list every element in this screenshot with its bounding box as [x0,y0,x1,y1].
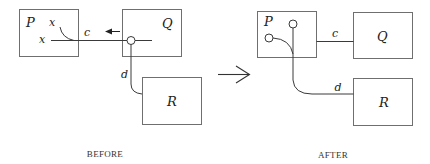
before-q-label: Q [162,16,173,31]
after-internal-wire [273,38,293,54]
before-channel-c-label: c [84,26,90,39]
after-panel: P Q R c d AFTER [258,12,413,161]
before-process-r: R [143,78,202,125]
after-q-label: Q [377,29,388,44]
after-channel-c-label: c [332,27,338,40]
after-caption: AFTER [318,150,348,160]
after-channel-d-label: d [334,81,341,94]
after-process-q: Q [354,13,413,59]
before-channel-d-label: d [121,68,128,81]
right-arrow-icon [218,66,250,83]
after-process-r: R [354,79,413,126]
before-p-port-x-left: x [39,33,46,46]
before-r-label: R [166,94,177,109]
after-p-port-top [289,20,297,28]
before-p-port-x-top: x [49,16,56,29]
after-r-label: R [378,95,389,110]
before-channel-d-line [131,45,142,95]
before-panel: P x x Q R c d BEFORE [20,10,202,160]
before-q-port-circle [127,37,135,45]
before-p-label: P [25,15,35,30]
after-p-port-left [265,34,273,42]
after-p-label: P [263,14,273,29]
before-process-p: P x x [20,10,79,57]
after-channel-d-line [293,28,354,94]
before-caption: BEFORE [87,149,124,159]
before-x-curve [60,27,74,41]
diagram-canvas: P x x Q R c d BEFORE [0,0,430,164]
